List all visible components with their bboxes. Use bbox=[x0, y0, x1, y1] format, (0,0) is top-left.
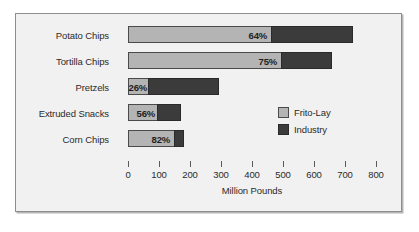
legend-item-frito-lay: Frito-Lay bbox=[278, 104, 331, 121]
bar-share-label: 82% bbox=[152, 133, 170, 144]
bar-segment-frito-lay: 75% bbox=[128, 52, 282, 69]
bar-segment-industry bbox=[174, 130, 184, 147]
bar-share-label: 26% bbox=[129, 81, 147, 92]
x-tick bbox=[314, 161, 315, 167]
bar-segment-industry bbox=[281, 52, 332, 69]
x-tick-label: 800 bbox=[368, 169, 383, 180]
bar-share-label: 64% bbox=[249, 29, 267, 40]
x-tick bbox=[221, 161, 222, 167]
x-tick-label: 0 bbox=[125, 169, 130, 180]
bar-segment-frito-lay: 82% bbox=[128, 130, 175, 147]
bar-share-label: 75% bbox=[259, 55, 277, 66]
x-axis: 0 100 200 300 400 500 600 700 800 bbox=[128, 161, 376, 162]
category-label-potato-chips: Potato Chips bbox=[56, 30, 109, 41]
x-tick bbox=[190, 161, 191, 167]
x-tick bbox=[159, 161, 160, 167]
bar-segment-industry bbox=[148, 78, 219, 95]
x-tick bbox=[128, 161, 129, 167]
category-label-tortilla-chips: Tortilla Chips bbox=[56, 56, 109, 67]
x-tick-label: 700 bbox=[337, 169, 352, 180]
plot-area bbox=[16, 14, 419, 232]
bar-segment-industry bbox=[157, 104, 181, 121]
x-tick bbox=[345, 161, 346, 167]
x-tick-label: 200 bbox=[182, 169, 197, 180]
chart-legend: Frito-Lay Industry bbox=[278, 104, 331, 138]
x-tick bbox=[252, 161, 253, 167]
legend-label: Frito-Lay bbox=[294, 107, 331, 118]
bar-segment-frito-lay: 64% bbox=[128, 26, 272, 43]
x-tick-label: 500 bbox=[275, 169, 290, 180]
bar-share-label: 56% bbox=[137, 107, 155, 118]
category-label-extruded-snacks: Extruded Snacks bbox=[39, 108, 109, 119]
x-axis-title: Million Pounds bbox=[128, 185, 376, 196]
bar-segment-frito-lay: 56% bbox=[128, 104, 158, 121]
x-tick-label: 600 bbox=[306, 169, 321, 180]
x-tick bbox=[376, 161, 377, 167]
legend-swatch-icon bbox=[278, 107, 289, 118]
legend-item-industry: Industry bbox=[278, 121, 331, 138]
x-tick bbox=[283, 161, 284, 167]
bar-segment-frito-lay: 26% bbox=[128, 78, 149, 95]
x-tick-label: 100 bbox=[151, 169, 166, 180]
x-tick-label: 400 bbox=[244, 169, 259, 180]
chart-figure: Potato Chips Tortilla Chips Pretzels Ext… bbox=[0, 0, 419, 232]
bar-segment-industry bbox=[271, 26, 353, 43]
category-label-corn-chips: Corn Chips bbox=[62, 134, 109, 145]
x-tick-label: 300 bbox=[213, 169, 228, 180]
category-label-pretzels: Pretzels bbox=[75, 82, 109, 93]
legend-swatch-icon bbox=[278, 124, 289, 135]
legend-label: Industry bbox=[294, 124, 327, 135]
